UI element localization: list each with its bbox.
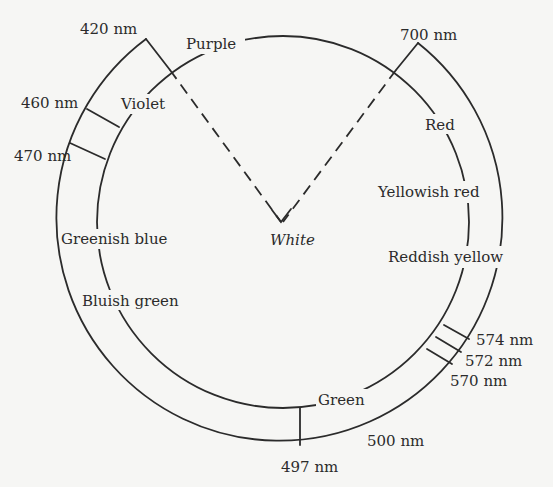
label-violet: Violet (120, 95, 165, 113)
label-470nm: 470 nm (14, 147, 71, 165)
label-700nm: 700 nm (400, 26, 457, 44)
divider-570 (427, 349, 452, 364)
label-reddish-yellow: Reddish yellow (388, 248, 503, 266)
label-460nm: 460 nm (21, 94, 78, 112)
label-white: White (270, 231, 315, 249)
label-500nm: 500 nm (367, 432, 424, 450)
label-green: Green (318, 391, 365, 409)
label-yellowish-red: Yellowish red (377, 183, 480, 201)
label-red: Red (425, 116, 455, 134)
divider-572 (436, 337, 461, 352)
end-cap-420 (146, 39, 170, 70)
label-574nm: 574 nm (476, 331, 533, 349)
label-purple: Purple (186, 35, 236, 53)
label-572nm: 572 nm (465, 352, 522, 370)
label-570nm: 570 nm (450, 372, 507, 390)
label-greenish-blue: Greenish blue (61, 230, 168, 248)
label-420nm: 420 nm (80, 20, 137, 38)
label-bluish-green: Bluish green (82, 292, 179, 310)
divider-574 (444, 325, 469, 339)
end-cap-700 (396, 43, 418, 70)
dashed-line-violet-to-white (170, 70, 281, 222)
divider-460 (87, 109, 119, 127)
label-497nm: 497 nm (281, 458, 338, 476)
color-circle-svg: Purple Violet Greenish blue Bluish green… (0, 0, 553, 487)
color-circle-diagram: Purple Violet Greenish blue Bluish green… (0, 0, 553, 487)
divider-470 (70, 143, 105, 159)
